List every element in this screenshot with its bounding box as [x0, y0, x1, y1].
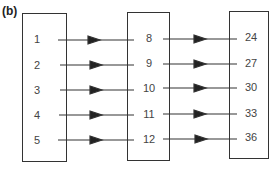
arrow-icon	[58, 136, 134, 144]
arrow-icon	[60, 86, 134, 94]
mapping-arrows	[0, 0, 276, 169]
arrow-icon	[60, 61, 134, 69]
arrow-icon	[163, 35, 237, 43]
arrow-icon	[59, 111, 134, 119]
arrow-icon	[163, 60, 237, 68]
arrow-icon	[163, 110, 237, 118]
arrow-icon	[163, 84, 237, 92]
arrow-icon	[58, 36, 134, 44]
arrow-icon	[163, 135, 237, 143]
